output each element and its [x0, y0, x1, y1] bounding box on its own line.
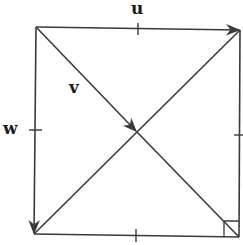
vector-v-half-diagonal [36, 27, 136, 131]
label-u: u [131, 0, 143, 17]
diagonal-bottom-left-to-top-right [34, 30, 240, 234]
vector-square-diagram [0, 0, 243, 245]
label-w: w [3, 120, 18, 137]
label-v: v [69, 79, 79, 96]
right-edge [239, 30, 240, 237]
